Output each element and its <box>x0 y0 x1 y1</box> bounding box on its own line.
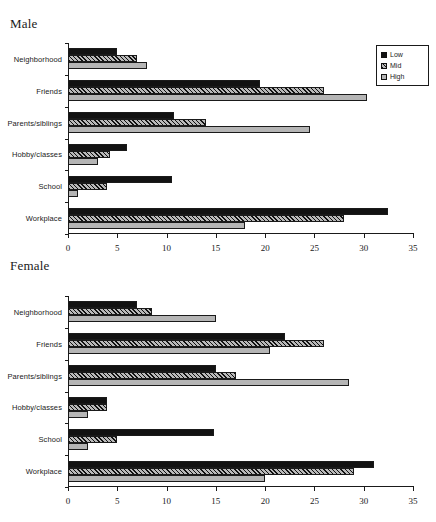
y-axis-tick <box>65 487 69 488</box>
y-axis-tick <box>65 139 69 140</box>
bar-high <box>68 379 349 386</box>
bar-low <box>68 301 137 308</box>
y-axis-tick <box>65 107 69 108</box>
x-axis-tick <box>265 233 266 238</box>
y-axis-tick <box>65 202 69 203</box>
bar-mid <box>68 119 206 126</box>
category-label: School <box>38 182 62 191</box>
bar-mid <box>68 308 152 315</box>
x-axis-tick <box>167 486 168 491</box>
x-axis-tick <box>216 486 217 491</box>
category-label: Neighborhood <box>14 307 62 316</box>
y-axis-tick <box>65 392 69 393</box>
bar-mid <box>68 151 110 158</box>
bar-low <box>68 80 260 87</box>
page-title-male: Male <box>10 16 38 32</box>
bar-mid <box>68 372 236 379</box>
y-axis-tick <box>65 170 69 171</box>
x-axis-tick-label: 15 <box>211 243 220 253</box>
x-axis-tick-label: 35 <box>409 243 418 253</box>
bar-mid <box>68 215 344 222</box>
legend-label-low: Low <box>390 51 403 58</box>
category-label: Parents/siblings <box>7 371 62 380</box>
x-axis-tick-label: 20 <box>261 243 270 253</box>
x-axis-tick-label: 35 <box>409 496 418 506</box>
bar-low <box>68 176 172 183</box>
hatched-swatch-icon <box>381 63 387 69</box>
bar-high <box>68 315 216 322</box>
category-label: Neighborhood <box>14 54 62 63</box>
bar-low <box>68 365 216 372</box>
y-axis-tick <box>65 296 69 297</box>
y-axis-tick <box>65 423 69 424</box>
chart-page: Male 05101520253035NeighborhoodFriendsPa… <box>0 0 436 522</box>
chart-plot-female: 05101520253035NeighborhoodFriendsParents… <box>68 296 413 487</box>
category-label: Workplace <box>26 214 62 223</box>
bar-mid <box>68 436 117 443</box>
legend-item-high: High <box>381 71 422 82</box>
category-label: School <box>38 435 62 444</box>
bar-low <box>68 208 388 215</box>
x-axis-tick-label: 25 <box>310 243 319 253</box>
bar-low <box>68 48 117 55</box>
x-axis-tick-label: 10 <box>162 496 171 506</box>
y-axis-tick <box>65 328 69 329</box>
legend-item-low: Low <box>381 49 422 60</box>
bar-high <box>68 94 367 101</box>
bar-low <box>68 429 214 436</box>
bar-mid <box>68 340 324 347</box>
x-axis-tick <box>117 233 118 238</box>
legend-label-high: High <box>390 73 404 80</box>
category-label: Hobby/classes <box>12 403 62 412</box>
y-axis-tick <box>65 75 69 76</box>
bar-high <box>68 443 88 450</box>
bar-mid <box>68 55 137 62</box>
x-axis-tick <box>216 233 217 238</box>
category-label: Workplace <box>26 467 62 476</box>
y-axis-tick <box>65 360 69 361</box>
x-axis-tick <box>117 486 118 491</box>
bar-high <box>68 222 245 229</box>
x-axis-tick-label: 5 <box>115 496 120 506</box>
legend-item-mid: Mid <box>381 60 422 71</box>
bar-mid <box>68 468 354 475</box>
bar-high <box>68 62 147 69</box>
x-axis-male <box>68 233 413 234</box>
x-axis-tick <box>364 233 365 238</box>
bar-low <box>68 112 174 119</box>
x-axis-tick <box>167 233 168 238</box>
legend-male: Low Mid High <box>376 45 429 86</box>
x-axis-tick-label: 15 <box>211 496 220 506</box>
x-axis-tick <box>413 486 414 491</box>
bar-high <box>68 158 98 165</box>
chart-plot-male: 05101520253035NeighborhoodFriendsParents… <box>68 43 413 234</box>
bar-high <box>68 347 270 354</box>
bar-high <box>68 475 265 482</box>
x-axis-tick-label: 0 <box>66 496 71 506</box>
bar-low <box>68 397 107 404</box>
x-axis-tick-label: 10 <box>162 243 171 253</box>
bar-low <box>68 144 127 151</box>
panel-male: Male 05101520253035NeighborhoodFriendsPa… <box>0 16 436 254</box>
x-axis-tick <box>413 233 414 238</box>
panel-female: Female 05101520253035NeighborhoodFriends… <box>0 258 436 522</box>
solid-black-swatch-icon <box>381 52 387 58</box>
x-axis-tick <box>364 486 365 491</box>
x-axis-tick-label: 5 <box>115 243 120 253</box>
bar-high <box>68 190 78 197</box>
bar-mid <box>68 183 107 190</box>
x-axis-tick-label: 25 <box>310 496 319 506</box>
x-axis-tick <box>265 486 266 491</box>
category-label: Friends <box>36 339 62 348</box>
bar-low <box>68 333 285 340</box>
x-axis-tick-label: 30 <box>359 243 368 253</box>
x-axis-tick-label: 20 <box>261 496 270 506</box>
bar-low <box>68 461 374 468</box>
category-label: Parents/siblings <box>7 118 62 127</box>
x-axis-tick-label: 0 <box>66 243 71 253</box>
x-axis-tick-label: 30 <box>359 496 368 506</box>
y-axis-tick <box>65 43 69 44</box>
x-axis-female <box>68 486 413 487</box>
category-label: Friends <box>36 86 62 95</box>
x-axis-tick <box>314 233 315 238</box>
